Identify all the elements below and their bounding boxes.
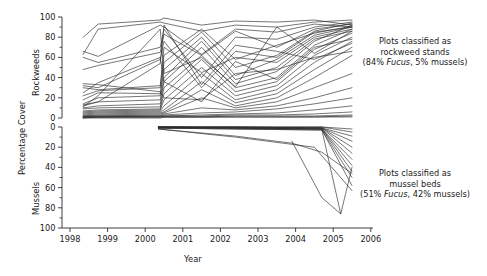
rockweed-axis-group: 020406080100 — [40, 12, 62, 123]
y-tick-label: 0 — [50, 122, 55, 132]
annotation-mussel-beds: Plots classified as mussel beds (51% Fuc… — [345, 168, 485, 200]
annotation-rockweed-post: , 5% mussels) — [410, 57, 467, 67]
y-tick-label: 60 — [45, 183, 55, 193]
figure-container: 020406080100 020406080100 19981999200020… — [0, 0, 487, 276]
y-axis-rockweeds-label: Rockweeds — [31, 49, 41, 96]
annotation-rockweed-stands: Plots classified as rockweed stands (84%… — [345, 36, 485, 68]
y-axis-mussels-label: Mussels — [31, 182, 41, 215]
y-tick-label: 40 — [45, 73, 55, 83]
annotation-mussel-taxon: Fucus — [384, 189, 408, 199]
annotation-mussel-line3: (51% Fucus, 42% mussels) — [345, 189, 485, 200]
annotation-rockweed-line2: rockweed stands — [345, 47, 485, 58]
x-tick-label: 2005 — [323, 234, 344, 244]
annotation-rockweed-line3: (84% Fucus, 5% mussels) — [345, 57, 485, 68]
y-tick-label: 40 — [45, 162, 55, 172]
y-tick-label: 60 — [45, 52, 55, 62]
y-axis-outer-label: Percentage Cover — [17, 101, 27, 175]
y-tick-label: 20 — [45, 142, 55, 152]
x-tick-label: 2006 — [360, 234, 381, 244]
mussel-series-group — [158, 127, 352, 214]
annotation-mussel-line2: mussel beds — [345, 179, 485, 190]
x-tick-label: 1999 — [97, 234, 118, 244]
top-panel: 020406080100 — [40, 12, 352, 123]
x-tick-label: 2003 — [248, 234, 269, 244]
y-tick-label: 100 — [40, 12, 56, 22]
annotation-mussel-pre: (51% — [360, 189, 384, 199]
y-tick-label: 100 — [40, 223, 56, 233]
x-tick-label: 2001 — [172, 234, 193, 244]
x-axis-label: Year — [184, 254, 202, 264]
x-axis-group: 199819992000200120022003200420052006 — [60, 228, 382, 244]
series-line — [83, 26, 352, 96]
x-tick-label: 2002 — [210, 234, 231, 244]
annotation-rockweed-taxon: Fucus — [387, 57, 411, 67]
x-tick-label: 1998 — [60, 234, 81, 244]
annotation-rockweed-pre: (84% — [363, 57, 387, 67]
series-line — [292, 141, 341, 214]
annotation-mussel-line1: Plots classified as — [345, 168, 485, 179]
x-tick-label: 2000 — [135, 234, 156, 244]
rockweed-series-group — [83, 18, 352, 118]
y-tick-label: 80 — [45, 32, 55, 42]
y-tick-label: 20 — [45, 93, 55, 103]
y-tick-label: 80 — [45, 203, 55, 213]
series-line — [83, 24, 352, 69]
annotation-mussel-post: , 42% mussels) — [408, 189, 470, 199]
bottom-panel: 020406080100 — [40, 122, 352, 233]
mussel-axis-group: 020406080100 — [40, 122, 62, 233]
annotation-rockweed-line1: Plots classified as — [345, 36, 485, 47]
x-tick-label: 2004 — [285, 234, 306, 244]
